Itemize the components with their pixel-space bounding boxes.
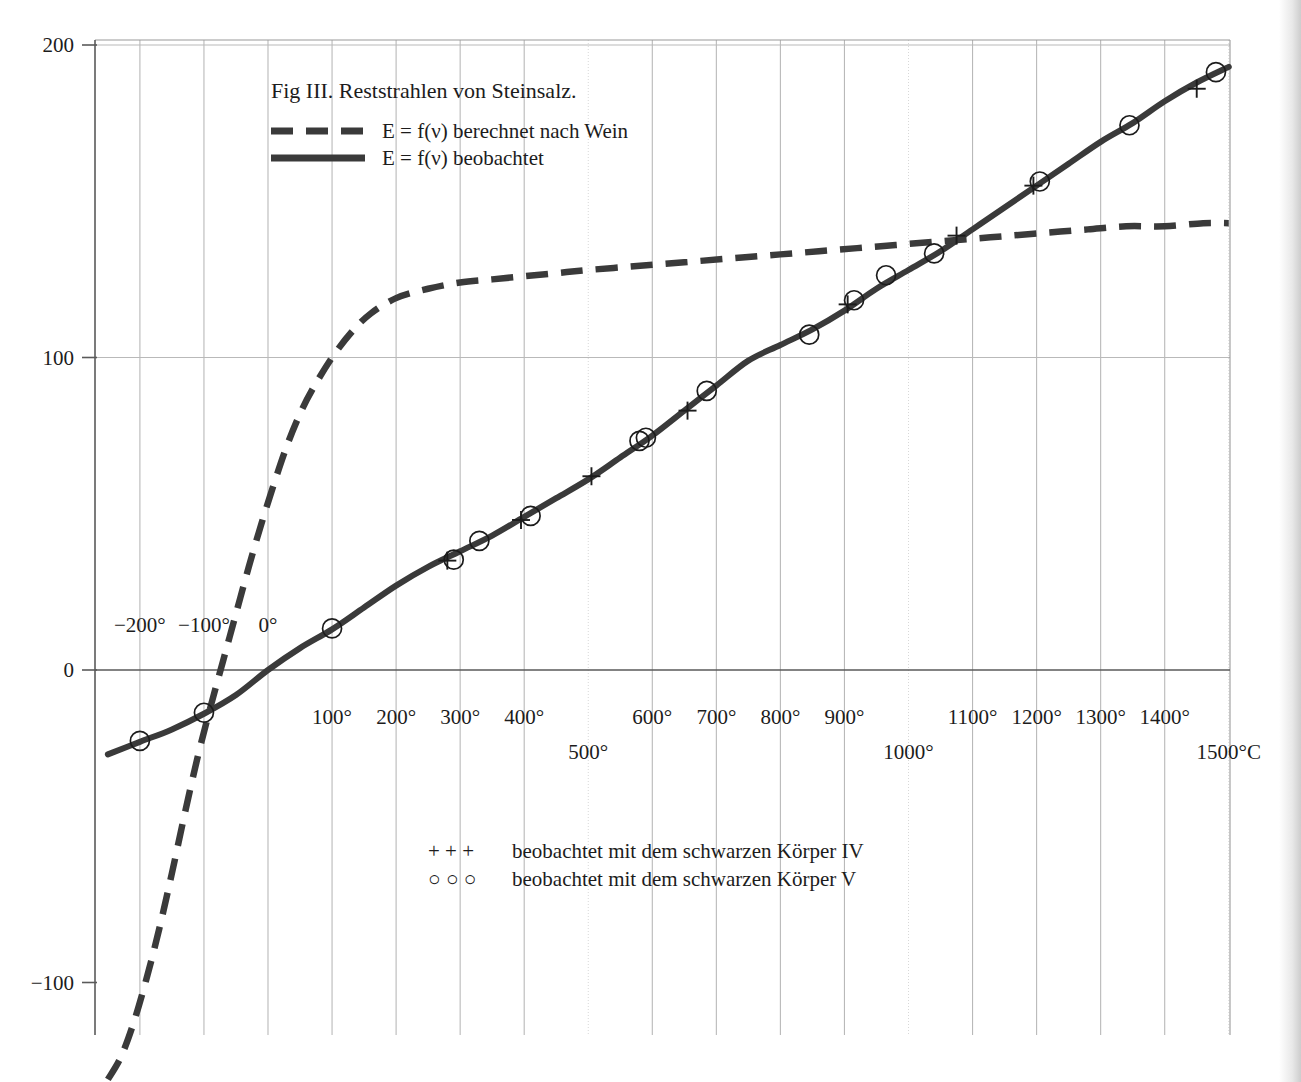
x-tick-label-800: 800° — [760, 705, 800, 729]
x-tick-label-1300: 1300° — [1075, 705, 1125, 729]
curve-layer — [108, 67, 1229, 1080]
chart-canvas: 2001000−100−200°−100°0°100°200°300°400°5… — [0, 0, 1301, 1082]
x-tick-label-1000: 1000° — [883, 740, 933, 764]
x-tick-label--100: −100° — [178, 613, 230, 637]
x-tick-label-900: 900° — [824, 705, 864, 729]
legend-label-dashed: E = f(ν) berechnet nach Wein — [382, 119, 629, 143]
x-tick-label-400: 400° — [504, 705, 544, 729]
x-tick-label-500: 500° — [568, 740, 608, 764]
marker-legend-label-circle: beobachtet mit dem schwarzen Körper V — [512, 867, 856, 891]
x-tick-label-1100: 1100° — [948, 705, 998, 729]
curve-observed — [108, 67, 1229, 755]
marker-legend-label-plus: beobachtet mit dem schwarzen Körper IV — [512, 839, 864, 863]
figure-legend: Fig III. Reststrahlen von Steinsalz. E =… — [271, 78, 629, 170]
x-tick-label-100: 100° — [312, 705, 352, 729]
y-tick-label-200: 200 — [43, 33, 75, 57]
figure-title: Fig III. Reststrahlen von Steinsalz. — [271, 78, 577, 103]
legend-label-solid: E = f(ν) beobachtet — [382, 146, 544, 170]
x-tick-label-300: 300° — [440, 705, 480, 729]
marker-legend: + + + beobachtet mit dem schwarzen Körpe… — [428, 839, 864, 891]
x-tick-label-1500: 1500°C — [1197, 740, 1261, 764]
y-tick-label--100: −100 — [31, 971, 74, 995]
plus-symbols-icon: + + + — [428, 839, 474, 863]
figure-root: 2001000−100−200°−100°0°100°200°300°400°5… — [0, 0, 1301, 1082]
x-tick-label-0: 0° — [259, 613, 278, 637]
circle-symbols-icon: ○ ○ ○ — [428, 867, 477, 891]
y-tick-label-0: 0 — [64, 658, 75, 682]
x-tick-label-1200: 1200° — [1011, 705, 1061, 729]
curve-calculated-wien — [108, 223, 1229, 1079]
x-tick-label-200: 200° — [376, 705, 416, 729]
y-tick-label-100: 100 — [43, 346, 75, 370]
x-tick-label-600: 600° — [632, 705, 672, 729]
x-tick-label-1400: 1400° — [1139, 705, 1189, 729]
x-tick-label-700: 700° — [696, 705, 736, 729]
x-tick-label--200: −200° — [114, 613, 166, 637]
